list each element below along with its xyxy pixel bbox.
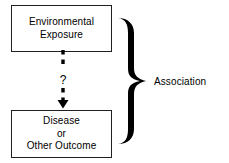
node-outcome-line-3: Other Outcome — [27, 140, 97, 153]
arrowhead-icon — [58, 100, 69, 109]
node-exposure-line-1: Environmental — [29, 16, 94, 29]
connector-question-label: ? — [52, 72, 74, 88]
node-disease-outcome: Disease or Other Outcome — [11, 110, 112, 158]
association-label: Association — [154, 74, 226, 90]
brace-path — [118, 18, 146, 144]
node-outcome-line-1: Disease — [43, 115, 80, 128]
node-environmental-exposure: Environmental Exposure — [11, 5, 112, 52]
right-curly-brace-icon — [114, 16, 152, 146]
node-outcome-line-2: or — [57, 128, 66, 141]
diagram-canvas: Environmental Exposure ? Association Dis… — [0, 0, 229, 163]
node-exposure-line-2: Exposure — [40, 29, 83, 42]
